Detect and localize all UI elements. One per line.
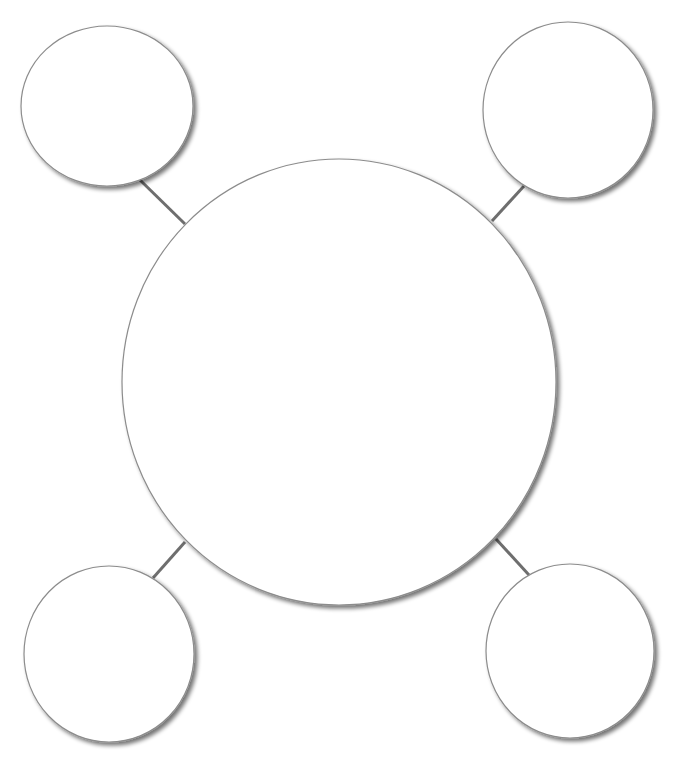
- bubble-top-right[interactable]: [483, 22, 653, 198]
- bubble-top-right-shape[interactable]: [483, 22, 653, 198]
- connector-bottom-right: [496, 539, 529, 575]
- bubble-bottom-right[interactable]: [486, 564, 654, 738]
- diagram-canvas: [0, 0, 680, 764]
- connector-bottom-left: [153, 542, 185, 578]
- bubble-bottom-left-shape[interactable]: [24, 566, 194, 742]
- center-bubble[interactable]: [122, 159, 556, 605]
- center-bubble-shape[interactable]: [122, 159, 556, 605]
- bubble-bottom-left[interactable]: [24, 566, 194, 742]
- bubble-top-left[interactable]: [21, 26, 193, 186]
- bubble-top-left-shape[interactable]: [21, 26, 193, 186]
- connector-top-right: [492, 186, 524, 221]
- bubble-bottom-right-shape[interactable]: [486, 564, 654, 738]
- connector-top-left: [140, 180, 185, 224]
- bubble-map-diagram: [0, 0, 680, 764]
